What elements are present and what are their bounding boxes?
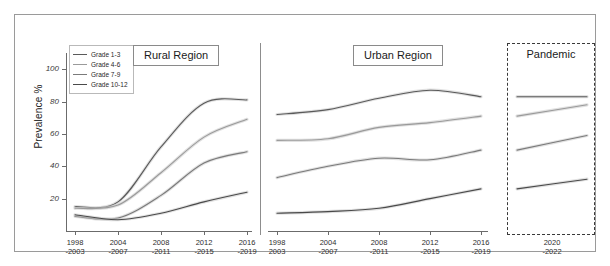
confidence-band	[75, 152, 247, 220]
y-tick	[62, 69, 66, 70]
x-tick	[379, 232, 380, 235]
x-tick-label: 2012-2015	[184, 238, 224, 256]
panel-divider	[260, 43, 261, 235]
x-axis-line-urban	[268, 231, 488, 232]
legend-swatch-icon	[73, 54, 87, 56]
legend-swatch-icon	[73, 74, 87, 76]
x-tick	[118, 232, 119, 235]
x-tick	[277, 232, 278, 235]
x-tick-label: 2020-2022	[532, 238, 572, 256]
panel-title-rural: Rural Region	[133, 45, 219, 66]
confidence-band	[277, 150, 481, 178]
legend-label: Grade 7-9	[91, 71, 120, 78]
x-tick-label: 2012-2015	[410, 238, 450, 256]
y-tick	[62, 166, 66, 167]
x-tick-label: 2004-2007	[98, 238, 138, 256]
x-tick	[328, 232, 329, 235]
confidence-band	[75, 192, 247, 220]
x-tick-label: 2008-2011	[359, 238, 399, 256]
panel-title-urban: Urban Region	[353, 45, 443, 66]
panel-title-pandemic: Pandemic	[512, 48, 590, 60]
line-series-grade-1-3	[75, 99, 247, 208]
y-axis-title: Prevalence %	[33, 72, 44, 162]
legend-item-grade-1-3: Grade 1-3	[73, 50, 128, 59]
y-axis-line	[66, 53, 67, 231]
legend-label: Grade 4-6	[91, 61, 120, 68]
x-tick	[161, 232, 162, 235]
x-tick-label: 1998-2003	[55, 238, 95, 256]
legend-item-grade-4-6: Grade 4-6	[73, 60, 128, 69]
x-axis-line-rural	[66, 231, 252, 232]
legend-item-grade-10-12: Grade 10-12	[73, 80, 128, 89]
legend-label: Grade 10-12	[91, 81, 128, 88]
x-tick-label: 2004-2007	[308, 238, 348, 256]
legend-swatch-icon	[73, 84, 87, 86]
y-tick	[62, 199, 66, 200]
confidence-band	[75, 99, 247, 208]
x-tick	[75, 232, 76, 235]
x-tick	[430, 232, 431, 235]
figure-frame: 20406080100 Prevalence % Grade 1-3Grade …	[14, 14, 596, 252]
y-tick-label-40: 40	[33, 162, 59, 170]
y-tick	[62, 134, 66, 135]
confidence-band	[277, 116, 481, 140]
x-tick	[481, 232, 482, 235]
confidence-band	[75, 119, 247, 208]
x-tick	[247, 232, 248, 235]
line-series-grade-10-12	[277, 189, 481, 213]
legend-swatch-icon	[73, 64, 87, 66]
y-tick	[62, 102, 66, 103]
line-series-grade-4-6	[75, 119, 247, 208]
line-series-grade-7-9	[75, 152, 247, 220]
legend-item-grade-7-9: Grade 7-9	[73, 70, 128, 79]
y-tick-label-20: 20	[33, 195, 59, 203]
x-tick-label: 2008-2011	[141, 238, 181, 256]
confidence-band	[277, 90, 481, 114]
x-tick	[204, 232, 205, 235]
legend: Grade 1-3Grade 4-6Grade 7-9Grade 10-12	[69, 45, 134, 94]
x-tick-label: 2016-2019	[461, 238, 501, 256]
line-series-grade-7-9	[277, 150, 481, 178]
x-tick-label: 19982003	[257, 238, 297, 256]
line-series-grade-10-12	[75, 192, 247, 220]
legend-label: Grade 1-3	[91, 51, 120, 58]
confidence-band	[277, 189, 481, 213]
line-series-grade-1-3	[277, 90, 481, 114]
pandemic-region-box	[507, 43, 595, 235]
line-series-grade-4-6	[277, 116, 481, 140]
